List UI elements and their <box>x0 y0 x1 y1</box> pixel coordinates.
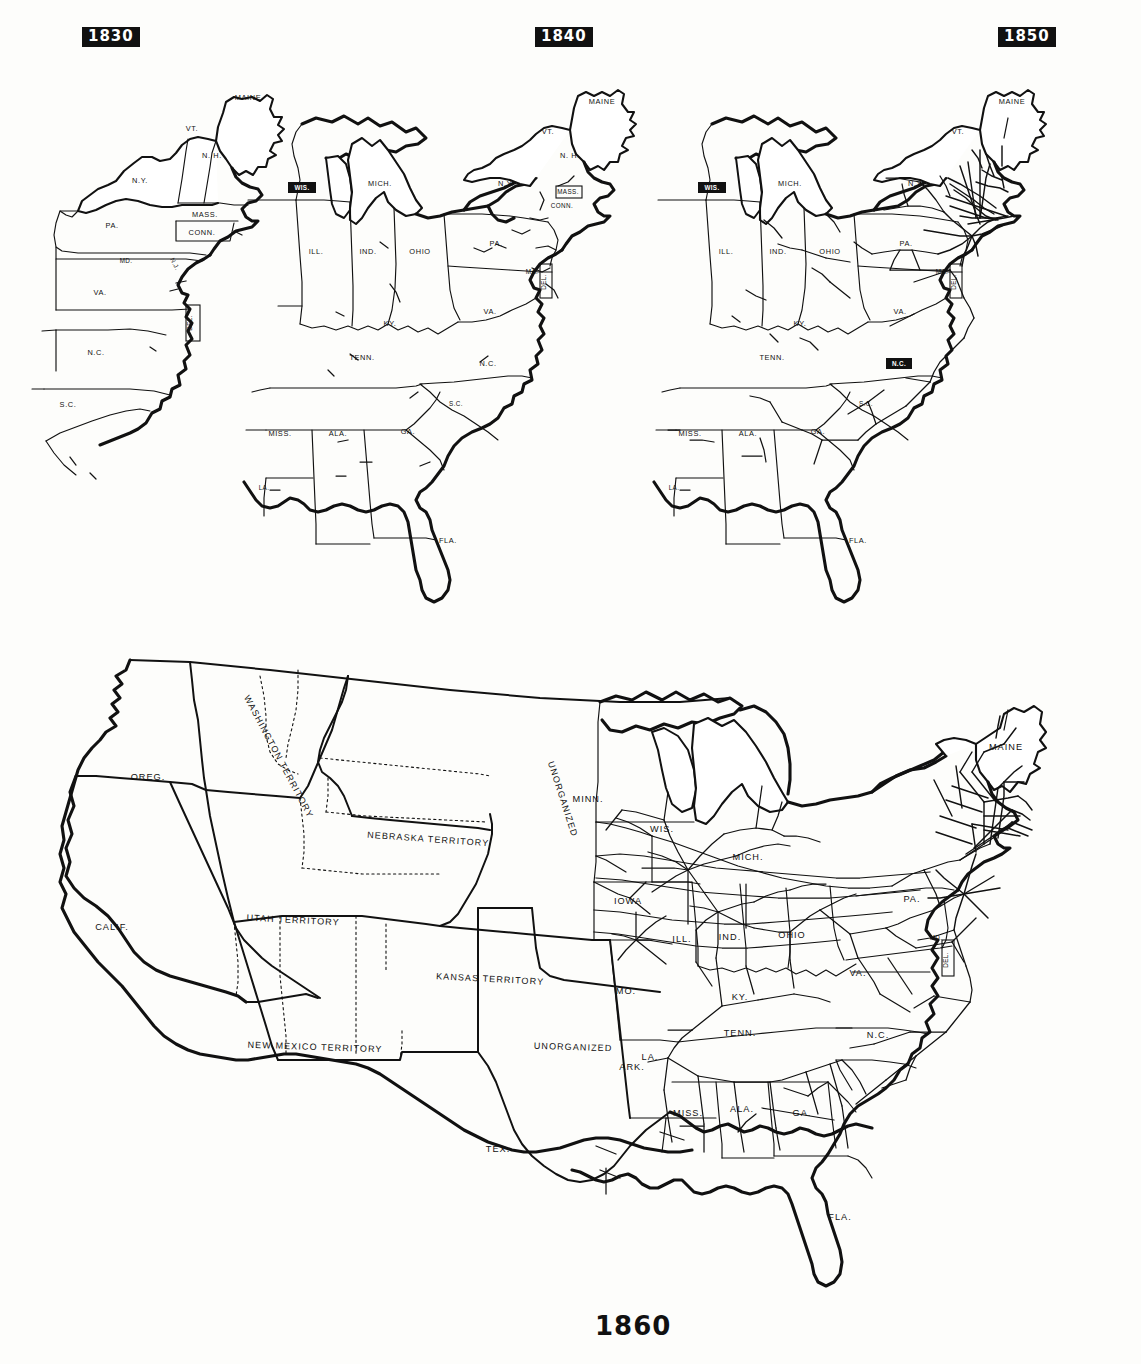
label-wis: WIS. <box>650 824 674 834</box>
map-1850-svg: MAINE VT. N.Y. PA. MA. DEL. VA. FLA. ALA… <box>650 58 1050 628</box>
label-mo: MO. <box>616 986 636 996</box>
label-del: DEL. <box>540 274 547 290</box>
map-1840-svg: MAINE VT. N. H. MASS. CONN. N.Y. PA. MA.… <box>240 58 640 628</box>
label-la: LA. <box>259 484 270 491</box>
label-vt: VT. <box>952 127 964 136</box>
label-la: LA. <box>642 1052 659 1062</box>
label-ga: GA. <box>811 427 826 436</box>
label-ala: ALA. <box>739 429 757 438</box>
map-panel-1850: MAINE VT. N.Y. PA. MA. DEL. VA. FLA. ALA… <box>650 58 1050 628</box>
label-md: MD. <box>120 257 133 264</box>
label-miss: MISS. <box>678 429 701 438</box>
label-fla: FLA. <box>849 536 867 545</box>
label-md: MA. <box>936 268 948 275</box>
label-ky: KY. <box>384 319 397 328</box>
label-pa: PA. <box>903 894 920 904</box>
label-conn: CONN. <box>551 202 573 209</box>
label-ohio: OHIO <box>819 247 840 256</box>
year-label-1830: 1830 <box>82 27 140 47</box>
label-va: VA. <box>849 968 866 978</box>
label-ind: IND. <box>719 932 741 942</box>
label-ohio: OHIO <box>778 930 805 940</box>
label-miss: MISS. <box>673 1108 703 1118</box>
label-ga: GA. <box>401 427 416 436</box>
label-mass: MASS. <box>192 210 218 219</box>
year-label-1840: 1840 <box>535 27 593 47</box>
label-ky: KY. <box>794 319 807 328</box>
label-tenn: TENN. <box>349 353 374 362</box>
national-borders-1860 <box>60 660 730 1152</box>
label-nh: N. H. <box>560 151 580 160</box>
railroad-lines-1850 <box>668 118 1014 490</box>
label-va: VA. <box>483 307 496 316</box>
label-ill: ILL. <box>719 247 734 256</box>
label-ny: N.Y. <box>908 179 924 188</box>
label-unorganized-south: UNORGANIZED <box>534 1041 613 1054</box>
label-la: LA. <box>669 484 680 491</box>
label-tenn: TENN. <box>759 353 784 362</box>
label-vt: VT. <box>186 124 198 133</box>
label-sc: S.C. <box>859 400 873 407</box>
label-nc: N.C. <box>892 360 906 367</box>
label-washington-territory: WASHINGTON TERRITORY <box>242 694 315 820</box>
map-panel-1840: MAINE VT. N. H. MASS. CONN. N.Y. PA. MA.… <box>240 58 640 628</box>
label-vt: VT. <box>542 127 554 136</box>
label-nc-highlight-1850: N.C. <box>886 358 912 369</box>
label-ny: N.Y. <box>132 176 148 185</box>
year-label-1860: 1860 <box>595 1311 671 1341</box>
label-utah-territory: UTAH TERRITORY <box>246 913 340 928</box>
label-maine: MAINE <box>989 742 1023 752</box>
railroad-network-1860 <box>594 710 1032 1194</box>
label-nebraska-territory: NEBRASKA TERRITORY <box>367 830 490 849</box>
label-ala: ALA. <box>329 429 347 438</box>
label-wis: WIS. <box>294 184 309 191</box>
label-wis-highlight-1840: WIS. <box>288 182 316 193</box>
label-ohio: OHIO <box>409 247 430 256</box>
label-miss: MISS. <box>268 429 291 438</box>
label-ill: ILL. <box>672 934 691 944</box>
label-tex: TEX. <box>486 1144 510 1154</box>
label-va: VA. <box>93 288 106 297</box>
map-sheet: 1830 <box>0 0 1141 1364</box>
label-sc: S.C. <box>60 400 77 409</box>
label-nc: N.C. <box>867 1030 889 1040</box>
label-calif: CALIF. <box>95 922 129 932</box>
label-pa: PA. <box>105 221 118 230</box>
label-md: MA. <box>526 268 538 275</box>
label-ala: ALA. <box>730 1104 754 1114</box>
label-fla: FLA. <box>439 536 457 545</box>
coastline-1850 <box>654 90 1046 602</box>
label-va: VA. <box>893 307 906 316</box>
label-mass: MASS. <box>557 188 579 195</box>
label-mich: MICH. <box>368 179 392 188</box>
label-ind: IND. <box>359 247 376 256</box>
label-sc: S.C. <box>449 400 463 407</box>
label-ill: ILL. <box>309 247 324 256</box>
label-nc: N.C. <box>87 348 104 357</box>
state-name-labels-1860: OREG. CALIF. MINN. IOWA MO. ARK. TEX. WI… <box>95 742 1023 1222</box>
label-del: DEL. <box>950 274 957 290</box>
label-minn: MINN. <box>572 794 603 804</box>
label-nh: N. H. <box>202 151 222 160</box>
label-ga: GA. <box>793 1108 812 1118</box>
label-pa: PA. <box>899 239 912 248</box>
label-fla: FLA. <box>828 1212 851 1222</box>
label-ky: KY. <box>732 992 749 1002</box>
label-ark: ARK. <box>619 1062 644 1072</box>
label-conn: CONN. <box>189 228 216 237</box>
territory-dotted-lines-1860 <box>234 670 490 1060</box>
label-nc: N.C. <box>479 359 496 368</box>
label-mich: MICH. <box>732 852 763 862</box>
label-oreg: OREG. <box>131 772 166 782</box>
map-1860-svg: OREG. CALIF. MINN. IOWA MO. ARK. TEX. WI… <box>40 640 1050 1300</box>
label-ny: N.Y. <box>498 179 514 188</box>
label-maine: MAINE <box>589 97 615 106</box>
coastline-1840 <box>244 90 636 602</box>
label-del: DEL. <box>942 952 949 968</box>
label-pa: PA. <box>489 239 502 248</box>
label-maine: MAINE <box>999 97 1025 106</box>
label-kansas-territory: KANSAS TERRITORY <box>436 971 545 987</box>
label-del: DEL. <box>186 315 193 331</box>
label-iowa: IOWA <box>614 896 642 906</box>
label-wis: WIS. <box>704 184 719 191</box>
